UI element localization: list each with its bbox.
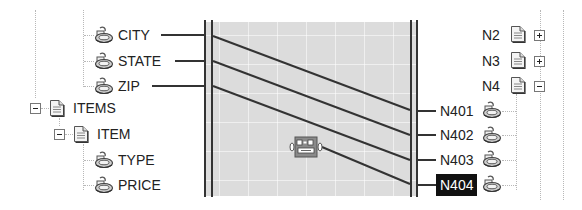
tree-guide [502,135,516,136]
element-icon [510,51,526,69]
element-icon [510,76,526,94]
connector-stub [418,159,436,161]
element-icon [510,25,526,43]
tree-guide [563,10,564,200]
field-icon [482,175,502,193]
tree-guide [502,111,516,112]
tree-item-label: N401 [440,103,473,119]
collapse-toggle[interactable] [534,81,545,92]
connector-stub [418,134,436,136]
mapping-line-function-n404[interactable] [322,147,410,184]
tree-guide [502,160,516,161]
function-block-icon[interactable] [289,136,325,158]
expand-toggle[interactable] [534,56,545,67]
connector-stub [418,110,436,112]
tree-guide [516,94,517,190]
field-icon [482,126,502,144]
tree-item-label: N403 [440,152,473,168]
tree-item-label: N404 [440,177,473,193]
field-icon [482,150,502,168]
tree-guide [502,185,516,186]
field-icon [482,101,502,119]
tree-item-label: N3 [482,53,500,69]
connector-stub [418,184,436,186]
tree-item-label: N402 [440,127,473,143]
tree-item-label: N2 [482,27,500,43]
expand-toggle[interactable] [534,30,545,41]
tree-item-label: N4 [482,78,500,94]
